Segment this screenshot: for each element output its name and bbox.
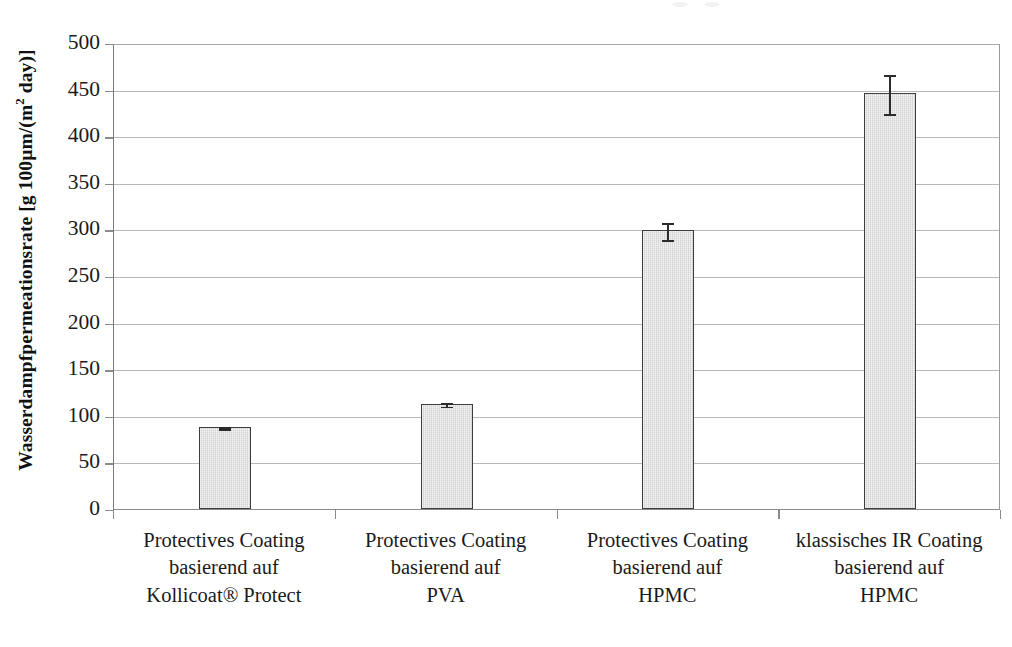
scan-artifact	[705, 2, 719, 7]
y-axis-ticks: 050100150200250300350400450500	[0, 0, 113, 647]
y-tick-mark	[105, 44, 113, 45]
y-tick-mark	[105, 510, 113, 511]
x-axis-category-line: basierend auf	[778, 554, 1000, 581]
gridline-500	[114, 44, 999, 45]
y-tick-label: 100	[68, 405, 100, 427]
bar-1	[199, 427, 251, 509]
x-axis-category-line: HPMC	[557, 582, 779, 609]
error-bar-cap-lower	[884, 114, 896, 116]
x-axis-category-line: Protectives Coating	[335, 527, 557, 554]
error-bar-cap-lower	[441, 407, 453, 409]
y-tick-mark	[105, 277, 113, 278]
y-tick-mark	[105, 463, 113, 464]
y-tick-label: 150	[68, 358, 100, 380]
x-axis-category-line: basierend auf	[557, 554, 779, 581]
y-tick-label: 350	[68, 172, 100, 194]
y-tick-mark	[105, 324, 113, 325]
error-bar-cap-lower	[219, 429, 231, 431]
x-tick-mark	[1000, 510, 1001, 519]
y-tick-label: 500	[68, 32, 100, 54]
y-tick-mark	[105, 137, 113, 138]
x-axis-category-line: Protectives Coating	[557, 527, 779, 554]
x-axis-category-label-2: Protectives Coatingbasierend aufPVA	[335, 527, 557, 609]
x-axis-category-line: Protectives Coating	[113, 527, 335, 554]
y-tick-label: 300	[68, 218, 100, 240]
y-tick-label: 450	[68, 79, 100, 101]
bar-4	[864, 93, 916, 509]
y-tick-label: 200	[68, 312, 100, 334]
y-tick-mark	[105, 417, 113, 418]
y-tick-mark	[105, 184, 113, 185]
error-bar-stem	[889, 75, 891, 116]
error-bar-cap-lower	[662, 240, 674, 242]
error-bar-cap-upper	[662, 223, 674, 225]
y-tick-label: 250	[68, 265, 100, 287]
bar-3	[642, 230, 694, 509]
x-axis-category-line: HPMC	[778, 582, 1000, 609]
scan-artifact	[672, 2, 688, 7]
x-tick-mark	[113, 510, 114, 519]
bar-chart-figure: Wasserdampfpermeationsrate [g 100µm/(m2 …	[0, 0, 1012, 647]
x-axis-category-line: PVA	[335, 582, 557, 609]
x-tick-mark	[335, 510, 336, 519]
x-axis-category-line: Kollicoat® Protect	[113, 582, 335, 609]
x-tick-mark	[778, 510, 779, 519]
x-axis-category-label-4: klassisches IR Coatingbasierend aufHPMC	[778, 527, 1000, 609]
y-tick-label: 400	[68, 125, 100, 147]
y-tick-label: 50	[79, 451, 101, 473]
error-bar-cap-upper	[884, 75, 896, 77]
y-tick-mark	[105, 370, 113, 371]
x-axis-category-label-1: Protectives Coatingbasierend aufKollicoa…	[113, 527, 335, 609]
bar-2	[421, 404, 473, 509]
x-axis-category-line: basierend auf	[335, 554, 557, 581]
x-axis-category-label-3: Protectives Coatingbasierend aufHPMC	[557, 527, 779, 609]
x-tick-mark	[557, 510, 558, 519]
x-axis-category-line: klassisches IR Coating	[778, 527, 1000, 554]
y-tick-label: 0	[89, 498, 100, 520]
x-axis-category-line: basierend auf	[113, 554, 335, 581]
y-tick-mark	[105, 91, 113, 92]
plot-area	[113, 44, 1000, 510]
error-bar-cap-upper	[441, 403, 453, 405]
gridline-450	[114, 91, 999, 92]
error-bar-stem	[667, 223, 669, 242]
y-tick-mark	[105, 230, 113, 231]
